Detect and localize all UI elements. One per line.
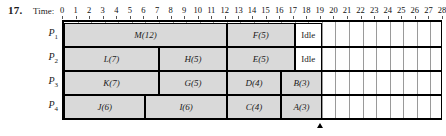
task-block-label: J(6) xyxy=(97,102,112,112)
problem-number: 17. xyxy=(8,4,22,16)
task-block-label: Idle xyxy=(301,54,315,64)
gantt-row-p4: J(6)I(6)C(4)A(3) xyxy=(64,95,441,119)
task-block-idle[interactable]: Idle xyxy=(295,23,322,47)
task-block-label: G(5) xyxy=(184,78,201,88)
axis-tick-mark-21 xyxy=(347,16,348,19)
axis-tick-label-15: 15 xyxy=(261,5,270,15)
task-block-label: Idle xyxy=(301,30,315,40)
axis-tick-mark-27 xyxy=(428,16,429,19)
axis-tick-mark-4 xyxy=(116,16,117,19)
axis-tick-mark-1 xyxy=(76,16,77,19)
axis-tick-label-4: 4 xyxy=(114,5,118,15)
task-block-l[interactable]: L(7) xyxy=(64,47,159,71)
task-block-label: K(7) xyxy=(103,78,120,88)
axis-tick-label-14: 14 xyxy=(248,5,257,15)
task-block-label: M(12) xyxy=(134,30,157,40)
task-block-f[interactable]: F(5) xyxy=(227,23,295,47)
axis-tick-mark-10 xyxy=(198,16,199,19)
task-block-m[interactable]: M(12) xyxy=(64,23,227,47)
gantt-chart-area: M(12)F(5)IdleL(7)H(5)E(5)IdleK(7)G(5)D(4… xyxy=(62,20,442,120)
axis-tick-mark-14 xyxy=(252,16,253,19)
axis-tick-mark-20 xyxy=(333,16,334,19)
axis-tick-label-7: 7 xyxy=(155,5,159,15)
axis-tick-label-18: 18 xyxy=(302,5,311,15)
task-block-g[interactable]: G(5) xyxy=(159,71,227,95)
axis-tick-label-5: 5 xyxy=(128,5,132,15)
axis-tick-mark-16 xyxy=(279,16,280,19)
axis-tick-label-11: 11 xyxy=(207,5,215,15)
axis-tick-mark-18 xyxy=(306,16,307,19)
axis-tick-label-8: 8 xyxy=(168,5,172,15)
task-block-label: I(6) xyxy=(179,102,193,112)
task-block-i[interactable]: I(6) xyxy=(145,95,226,119)
axis-tick-label-26: 26 xyxy=(411,5,420,15)
gantt-row-p3: K(7)G(5)D(4)B(3) xyxy=(64,71,441,95)
axis-tick-label-3: 3 xyxy=(101,5,105,15)
task-block-label: D(4) xyxy=(245,78,262,88)
axis-tick-label-9: 9 xyxy=(182,5,186,15)
time-axis-caption: Time: xyxy=(33,6,54,16)
row-label-p3: P3 xyxy=(34,75,58,89)
row-label-p2: P2 xyxy=(34,51,58,65)
axis-tick-mark-6 xyxy=(143,16,144,19)
task-block-label: L(7) xyxy=(104,54,120,64)
axis-tick-mark-28 xyxy=(442,16,443,19)
gantt-row-p2: L(7)H(5)E(5)Idle xyxy=(64,47,441,71)
task-block-j[interactable]: J(6) xyxy=(64,95,145,119)
axis-tick-label-1: 1 xyxy=(73,5,77,15)
axis-tick-label-13: 13 xyxy=(234,5,243,15)
task-block-a[interactable]: A(3) xyxy=(281,95,322,119)
axis-tick-label-2: 2 xyxy=(87,5,91,15)
axis-tick-mark-9 xyxy=(184,16,185,19)
task-block-e[interactable]: E(5) xyxy=(227,47,295,71)
axis-tick-mark-15 xyxy=(266,16,267,19)
row-label-p1: P1 xyxy=(34,27,58,41)
axis-tick-mark-12 xyxy=(225,16,226,19)
axis-tick-label-22: 22 xyxy=(356,5,365,15)
axis-tick-mark-11 xyxy=(211,16,212,19)
axis-tick-mark-19 xyxy=(320,16,321,19)
axis-tick-mark-0 xyxy=(62,16,63,19)
task-block-k[interactable]: K(7) xyxy=(64,71,159,95)
axis-tick-mark-23 xyxy=(374,16,375,19)
gantt-row-p1: M(12)F(5)Idle xyxy=(64,23,441,47)
axis-tick-mark-26 xyxy=(415,16,416,19)
axis-tick-label-19: 19 xyxy=(316,5,325,15)
axis-tick-label-6: 6 xyxy=(141,5,145,15)
task-block-label: E(5) xyxy=(253,54,269,64)
axis-tick-mark-17 xyxy=(293,16,294,19)
axis-tick-mark-25 xyxy=(401,16,402,19)
axis-tick-mark-5 xyxy=(130,16,131,19)
axis-tick-label-27: 27 xyxy=(424,5,433,15)
task-block-label: F(5) xyxy=(253,30,269,40)
axis-tick-mark-2 xyxy=(89,16,90,19)
axis-tick-mark-24 xyxy=(388,16,389,19)
task-block-label: A(3) xyxy=(293,102,309,112)
axis-tick-label-21: 21 xyxy=(343,5,352,15)
row-label-p4: P4 xyxy=(34,99,58,113)
axis-tick-label-10: 10 xyxy=(193,5,202,15)
axis-tick-mark-8 xyxy=(171,16,172,19)
axis-tick-label-24: 24 xyxy=(383,5,392,15)
axis-tick-mark-22 xyxy=(361,16,362,19)
axis-tick-label-12: 12 xyxy=(221,5,230,15)
axis-tick-label-0: 0 xyxy=(60,5,64,15)
axis-tick-label-20: 20 xyxy=(329,5,338,15)
axis-tick-label-17: 17 xyxy=(288,5,297,15)
axis-tick-label-28: 28 xyxy=(438,5,446,15)
task-block-label: B(3) xyxy=(293,78,309,88)
axis-tick-label-16: 16 xyxy=(275,5,284,15)
up-arrow-icon xyxy=(317,123,323,128)
task-block-h[interactable]: H(5) xyxy=(159,47,227,71)
task-block-d[interactable]: D(4) xyxy=(227,71,281,95)
axis-tick-mark-13 xyxy=(238,16,239,19)
task-block-c[interactable]: C(4) xyxy=(227,95,281,119)
axis-tick-label-23: 23 xyxy=(370,5,379,15)
task-block-label: C(4) xyxy=(246,102,263,112)
axis-tick-mark-7 xyxy=(157,16,158,19)
task-block-idle[interactable]: Idle xyxy=(295,47,322,71)
task-block-b[interactable]: B(3) xyxy=(281,71,322,95)
axis-tick-label-25: 25 xyxy=(397,5,406,15)
task-block-label: H(5) xyxy=(184,54,201,64)
